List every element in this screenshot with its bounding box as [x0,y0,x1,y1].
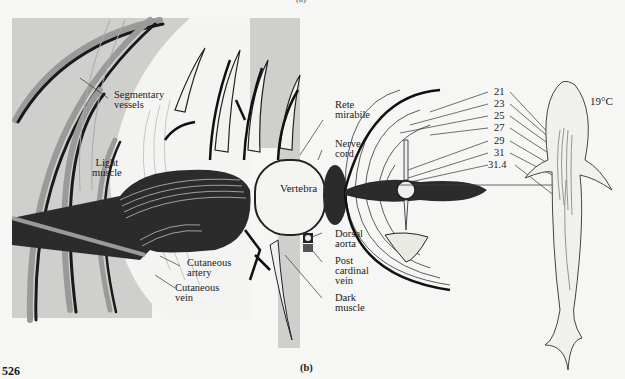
label-line: vessels [114,100,164,110]
label-line: vein [335,276,369,286]
label-dark-muscle: Dark muscle [335,293,365,313]
label-segmentary-vessels: Segmentary vessels [114,90,164,110]
isotherm-label: 27 [494,123,505,133]
post-cardinal-marker [303,244,313,252]
label-line: mirabile [335,110,370,120]
isotherm-label: 21 [494,87,505,97]
page-number: 526 [2,364,20,379]
isotherm-label: 29 [494,136,505,146]
label-rete-mirabile: Rete mirabile [335,100,370,120]
vertebra-shape [255,160,325,235]
panel-label-b: (b) [300,362,313,373]
label-cutaneous-vein: Cutaneous vein [175,283,219,303]
label-light-muscle: Light muscle [92,158,122,178]
label-line: artery [187,268,231,278]
label-line: aorta [335,239,363,249]
isotherm-label: 23 [494,99,505,109]
aorta-lumen [305,235,311,241]
panel-label-a: (a) [296,0,306,4]
isotherm-label: 25 [494,111,505,121]
label-line: muscle [92,168,122,178]
isotherm-label: 31.4 [488,160,506,170]
label-line: vein [175,293,219,303]
label-line: cord [335,149,361,159]
label-vertebra: Vertebra [280,182,317,194]
isotherm-label: 31 [494,148,505,158]
label-nerve-cord: Nerve cord [335,139,361,159]
label-dorsal-aorta: Dorsal aorta [335,229,363,249]
label-line: muscle [335,303,365,313]
label-post-cardinal-vein: Post cardinal vein [335,256,369,286]
fish-silhouette [525,81,612,370]
ambient-temperature: 19°C [590,95,613,107]
dark-muscle-block [323,165,347,225]
label-cutaneous-artery: Cutaneous artery [187,258,231,278]
